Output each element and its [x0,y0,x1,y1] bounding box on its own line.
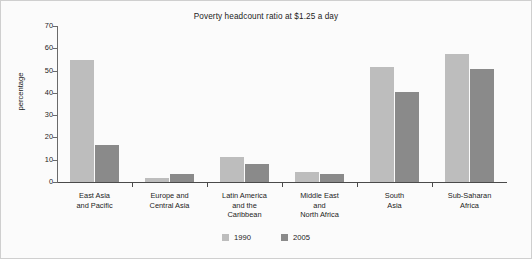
x-category-label-4: South Asia [357,191,432,210]
legend-swatch-icon [222,234,229,241]
y-axis-label: percentage [16,62,25,122]
legend-item-1990[interactable]: 1990 [222,233,251,242]
legend-label: 1990 [234,233,251,242]
x-tick-mark [132,182,133,187]
y-tick-label: 40 [45,88,53,97]
y-tick-mark [53,182,58,183]
x-category-label-3: Middle East and North Africa [282,191,357,220]
x-tick-mark [282,182,283,187]
bar-group [57,26,507,182]
plot-area: 010203040506070 [57,26,507,182]
x-category-label-5: Sub-Saharan Africa [432,191,507,210]
y-tick-label: 30 [45,110,53,119]
bar-2005-5 [470,69,494,182]
x-category-label-1: Europe and Central Asia [132,191,207,210]
y-tick-label: 0 [49,177,53,186]
chart-legend: 19902005 [1,233,531,242]
legend-label: 2005 [293,233,310,242]
y-tick-label: 50 [45,66,53,75]
x-category-label-2: Latin America and the Caribbean [207,191,282,220]
x-tick-mark [357,182,358,187]
y-tick-label: 10 [45,155,53,164]
x-tick-mark [432,182,433,187]
x-tick-mark [207,182,208,187]
chart-title: Poverty headcount ratio at $1.25 a day [1,12,531,21]
chart-figure: Poverty headcount ratio at $1.25 a day p… [0,0,532,259]
bar-1990-5 [445,54,469,182]
legend-swatch-icon [281,234,288,241]
x-category-label-0: East Asia and Pacific [57,191,132,210]
y-tick-label: 20 [45,132,53,141]
y-tick-label: 70 [45,21,53,30]
legend-item-2005[interactable]: 2005 [281,233,310,242]
y-tick-label: 60 [45,43,53,52]
